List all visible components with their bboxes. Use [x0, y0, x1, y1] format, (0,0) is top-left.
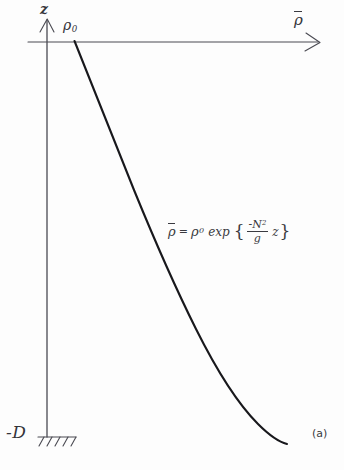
equation-exponent-numerator: -N2: [247, 219, 269, 231]
equation-exp-function: exp: [208, 226, 230, 238]
surface-density-symbol: ρ: [63, 17, 71, 33]
equation-lhs-symbol: ρ: [168, 225, 176, 238]
surface-density-label: ρ0: [63, 18, 77, 34]
equation-rhs-symbol: ρ: [191, 225, 199, 238]
z-axis-label: z: [40, 2, 48, 16]
bottom-boundary-hatching: [39, 437, 76, 446]
equation-close-brace: }: [280, 223, 291, 240]
density-equation: ρ = ρ 0 exp { -N2 g z }: [168, 219, 291, 244]
equation-equals-sign: =: [179, 226, 188, 237]
equation-rhs-subscript: 0: [199, 227, 204, 235]
surface-density-subscript: 0: [72, 24, 78, 34]
equation-exponent-numerator-power: 2: [262, 219, 266, 227]
panel-label: (a): [312, 428, 327, 439]
density-axis-label-symbol: ρ: [294, 13, 303, 28]
density-axis-label: ρ: [294, 13, 303, 28]
equation-open-brace: {: [234, 223, 245, 240]
equation-exponent-variable: z: [272, 226, 278, 238]
equation-exponent-denominator: g: [252, 232, 263, 244]
equation-exponent-fraction: -N2 g: [247, 219, 269, 244]
depth-label: -D: [6, 424, 26, 441]
equation-exponent-numerator-base: -N: [249, 218, 262, 231]
figure-container: z ρ ρ0 -D (a) ρ = ρ 0 exp { -N2 g z }: [0, 0, 344, 470]
